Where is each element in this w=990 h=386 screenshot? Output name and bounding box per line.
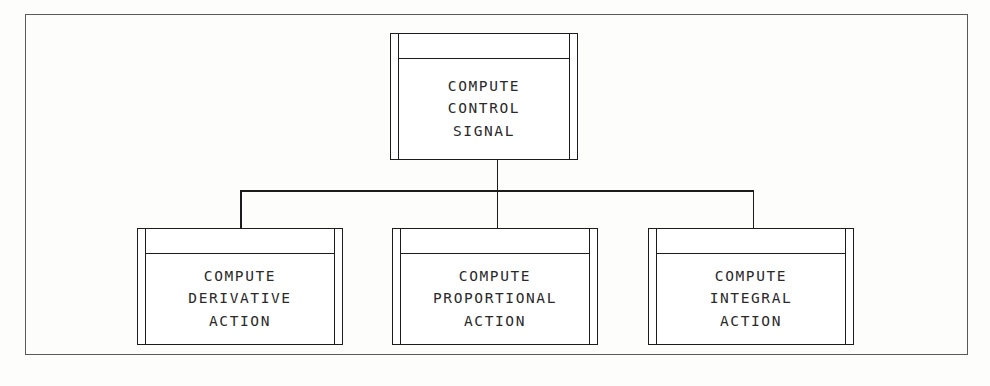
connector-drop-integral <box>753 190 755 229</box>
connector-drop-proportional <box>497 190 499 229</box>
module-spine-right-icon <box>569 34 570 159</box>
module-spine-left-icon <box>398 34 399 159</box>
connector-drop-derivative <box>240 190 242 229</box>
module-compute-integral-action[interactable]: COMPUTE INTEGRAL ACTION <box>648 228 854 345</box>
module-spine-right-icon <box>589 229 590 344</box>
module-label-line-3: ACTION <box>209 310 271 332</box>
module-label-line-1: COMPUTE <box>459 265 531 287</box>
module-spine-left-icon <box>145 229 146 344</box>
module-label: COMPUTE INTEGRAL ACTION <box>659 253 843 344</box>
module-spine-right-icon <box>334 229 335 344</box>
structure-chart-canvas: COMPUTE CONTROL SIGNAL COMPUTE DERIVATIV… <box>0 0 990 386</box>
module-spine-left-icon <box>400 229 401 344</box>
module-compute-derivative-action[interactable]: COMPUTE DERIVATIVE ACTION <box>137 228 343 345</box>
module-label-line-1: COMPUTE <box>204 265 276 287</box>
module-label-line-1: COMPUTE <box>715 265 787 287</box>
module-label: COMPUTE CONTROL SIGNAL <box>401 58 567 159</box>
module-label: COMPUTE DERIVATIVE ACTION <box>148 253 332 344</box>
module-compute-proportional-action[interactable]: COMPUTE PROPORTIONAL ACTION <box>392 228 598 345</box>
module-label-line-3: ACTION <box>464 310 526 332</box>
module-label-line-2: DERIVATIVE <box>188 287 291 309</box>
module-label-line-2: CONTROL <box>448 97 520 119</box>
module-label-line-2: INTEGRAL <box>710 287 793 309</box>
module-spine-left-icon <box>656 229 657 344</box>
module-label-line-1: COMPUTE <box>448 75 520 97</box>
module-label: COMPUTE PROPORTIONAL ACTION <box>403 253 587 344</box>
module-label-line-3: SIGNAL <box>453 120 515 142</box>
connector-parent-drop <box>497 160 499 191</box>
module-label-line-3: ACTION <box>720 310 782 332</box>
module-spine-right-icon <box>845 229 846 344</box>
module-label-line-2: PROPORTIONAL <box>433 287 557 309</box>
module-compute-control-signal[interactable]: COMPUTE CONTROL SIGNAL <box>390 33 578 160</box>
